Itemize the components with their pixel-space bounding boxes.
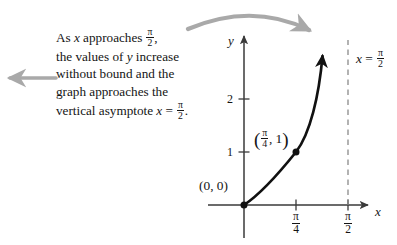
caption-text-block: As x approaches π2, the values of y incr… (56, 27, 206, 121)
caption-fraction-pi-over-2-first: π2 (146, 27, 153, 48)
caption-line4: graph approaches the (56, 84, 168, 99)
point-label-frac-denominator: 4 (261, 139, 268, 149)
x-tick-pi4-denominator: 4 (292, 224, 301, 236)
point-label-pi-over-4-one: (π4, 1) (254, 128, 289, 149)
x-tick-frac-pi-over-2: π 2 (344, 211, 353, 235)
point-origin-marker (241, 202, 248, 209)
x-tick-pi2-denominator: 2 (344, 224, 353, 236)
x-tick-pi2-numerator: π (344, 211, 353, 224)
point-label-open-paren: ( (254, 133, 260, 146)
caption-line3: without bound and the (56, 66, 174, 81)
caption-line5-equals: = (162, 103, 176, 118)
caption-line1-mid: approaches (80, 30, 146, 45)
x-tick-label-pi-over-2: π 2 (337, 211, 359, 235)
asymptote-frac-denominator: 2 (377, 59, 384, 69)
x-tick-label-pi-over-4: π 4 (285, 211, 307, 235)
caption-frac2-denominator: 2 (177, 111, 184, 121)
point-label-rest: , 1 (269, 131, 282, 146)
asymptote-label-equals: = (362, 51, 376, 66)
caption-fraction-pi-over-2-second: π2 (177, 100, 184, 121)
caption-line1-suffix: , (154, 30, 157, 45)
caption-line5-prefix: vertical asymptote (56, 103, 156, 118)
annotation-arrow-curved (188, 16, 309, 30)
x-tick-pi4-numerator: π (292, 211, 301, 224)
caption-line1-prefix: As (56, 30, 74, 45)
point-pi-over-4-marker (293, 149, 300, 156)
point-label-close-paren: ) (282, 133, 288, 146)
caption-line2-prefix: the values of (56, 49, 127, 64)
y-tick-label-2: 2 (224, 92, 236, 107)
x-tick-frac-pi-over-4: π 4 (292, 211, 301, 235)
caption-frac1-denominator: 2 (146, 38, 153, 48)
caption-line5-suffix: . (185, 103, 188, 118)
x-axis-label: x (375, 204, 381, 220)
y-tick-label-1: 1 (224, 145, 236, 160)
asymptote-label-fraction: π2 (377, 48, 384, 69)
figure-container: As x approaches π2, the values of y incr… (0, 0, 397, 245)
point-label-origin: (0, 0) (199, 178, 228, 194)
asymptote-equation-label: x = π2 (356, 48, 385, 69)
y-axis-label: y (228, 33, 234, 49)
point-label-fraction-pi-over-4: π4 (261, 128, 268, 149)
caption-line2-suffix: increase (133, 49, 180, 64)
